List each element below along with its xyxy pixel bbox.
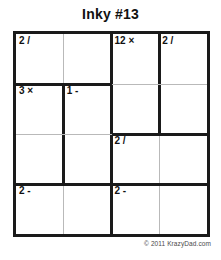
grid-line-horizontal: [16, 134, 64, 135]
cell-value[interactable]: [112, 184, 160, 234]
grid-line-vertical: [159, 184, 160, 234]
grid-line-vertical: [158, 34, 161, 84]
grid-line-horizontal: [112, 183, 160, 186]
grid-cell-r0c2[interactable]: 12 ×: [112, 34, 160, 84]
grid-cell-r3c1[interactable]: [64, 184, 112, 234]
grid-cell-r1c1[interactable]: 1 -: [64, 84, 112, 134]
cell-value[interactable]: [64, 34, 112, 84]
grid-cell-r0c3[interactable]: 2 /: [159, 34, 207, 84]
grid-line-horizontal: [112, 84, 160, 85]
page-title: Inky #13: [0, 5, 221, 23]
cell-value[interactable]: [16, 134, 64, 184]
puzzle-page: Inky #13 2 /12 ×2 /3 ×1 -2 /2 -2 - © 201…: [0, 0, 221, 260]
grid-cell-r2c3[interactable]: [159, 134, 207, 184]
grid-line-vertical: [110, 184, 113, 234]
cell-value[interactable]: [112, 84, 160, 134]
cell-value[interactable]: [159, 34, 207, 84]
cell-value[interactable]: [159, 184, 207, 234]
cell-value[interactable]: [64, 184, 112, 234]
cell-value[interactable]: [159, 134, 207, 184]
grid-line-horizontal: [64, 134, 112, 135]
grid-cell-r2c1[interactable]: [64, 134, 112, 184]
cell-value[interactable]: [112, 34, 160, 84]
grid-line-horizontal: [64, 83, 112, 86]
grid-line-horizontal: [159, 84, 207, 85]
grid-line-horizontal: [159, 133, 207, 136]
copyright-note: © 2011 KrazyDad.com: [144, 240, 211, 247]
grid-cell-r0c1[interactable]: [64, 34, 112, 84]
grid-cell-r3c0[interactable]: 2 -: [16, 184, 64, 234]
grid-line-vertical: [158, 84, 161, 134]
puzzle-grid[interactable]: 2 /12 ×2 /3 ×1 -2 /2 -2 -: [13, 31, 210, 237]
cell-value[interactable]: [16, 34, 64, 84]
grid-line-vertical: [110, 134, 113, 184]
grid-line-vertical: [110, 84, 113, 134]
grid-cell-r1c0[interactable]: 3 ×: [16, 84, 64, 134]
grid-line-vertical: [63, 34, 64, 84]
grid-line-vertical: [110, 34, 113, 84]
cell-value[interactable]: [64, 134, 112, 184]
cell-value[interactable]: [112, 134, 160, 184]
grid-cell-r2c2[interactable]: 2 /: [112, 134, 160, 184]
grid-line-horizontal: [64, 183, 112, 186]
grid-cell-r3c3[interactable]: [159, 184, 207, 234]
cell-value[interactable]: [16, 84, 64, 134]
grid-line-vertical: [62, 84, 65, 134]
cell-value[interactable]: [159, 84, 207, 134]
grid-cell-r3c2[interactable]: 2 -: [112, 184, 160, 234]
grid-line-horizontal: [16, 183, 64, 186]
grid-cell-r0c0[interactable]: 2 /: [16, 34, 64, 84]
grid-line-horizontal: [159, 183, 207, 186]
grid-line-vertical: [63, 184, 64, 234]
grid-line-vertical: [62, 134, 65, 184]
grid-line-horizontal: [112, 133, 160, 136]
cell-value[interactable]: [16, 184, 64, 234]
grid-cell-r1c3[interactable]: [159, 84, 207, 134]
grid-cell-r1c2[interactable]: [112, 84, 160, 134]
grid-line-horizontal: [16, 83, 64, 86]
grid-line-vertical: [159, 134, 160, 184]
cell-value[interactable]: [64, 84, 112, 134]
grid-cell-r2c0[interactable]: [16, 134, 64, 184]
